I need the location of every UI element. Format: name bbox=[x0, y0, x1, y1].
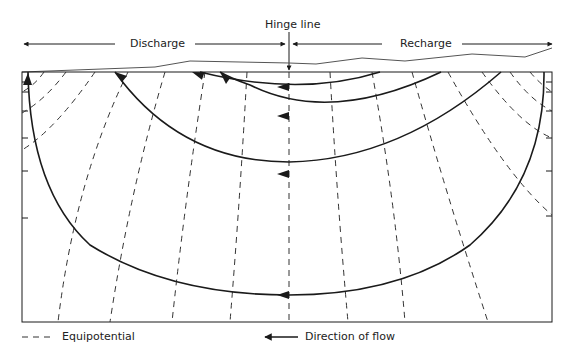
equipotential-lines bbox=[22, 72, 552, 322]
aquifer-boundary bbox=[22, 72, 552, 322]
flow-lines bbox=[28, 72, 544, 295]
flow-arrows bbox=[23, 68, 289, 299]
recharge-label: Recharge bbox=[400, 38, 452, 49]
groundwater-flow-diagram bbox=[0, 0, 573, 356]
hinge-line-label: Hinge line bbox=[265, 19, 320, 30]
boundary-ticks bbox=[22, 82, 552, 218]
legend-flow-label: Direction of flow bbox=[305, 331, 395, 342]
discharge-label: Discharge bbox=[130, 38, 185, 49]
land-surface bbox=[22, 48, 552, 72]
legend-equipotential-label: Equipotential bbox=[62, 331, 135, 342]
